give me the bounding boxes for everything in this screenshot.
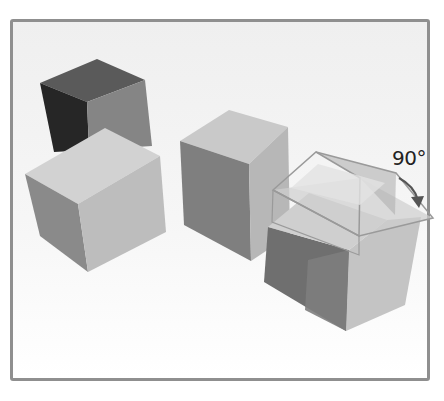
light-cube: [25, 128, 166, 272]
rotated-cube: [264, 152, 433, 331]
cubes-illustration: [0, 0, 444, 401]
rotation-angle-label: 90°: [392, 146, 426, 170]
